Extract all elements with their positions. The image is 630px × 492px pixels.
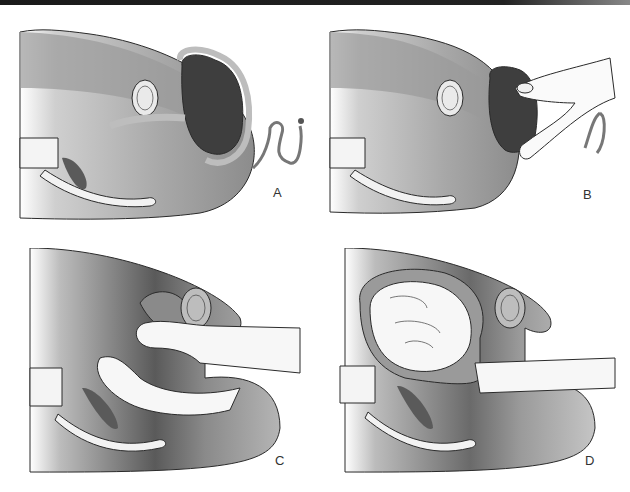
panel-label-d: D xyxy=(585,453,594,468)
panel-a: A xyxy=(0,8,315,248)
panel-c: C xyxy=(0,248,315,488)
panel-d-illustration xyxy=(315,248,630,488)
panel-b-illustration xyxy=(315,8,630,248)
panel-label-b: B xyxy=(583,187,592,202)
panel-c-illustration xyxy=(0,248,315,488)
panel-d: D xyxy=(315,248,630,488)
top-border-bar xyxy=(0,0,630,5)
panel-a-illustration xyxy=(0,8,315,248)
panel-b: B xyxy=(315,8,630,248)
panel-label-c: C xyxy=(275,453,284,468)
panel-label-a: A xyxy=(273,185,282,200)
